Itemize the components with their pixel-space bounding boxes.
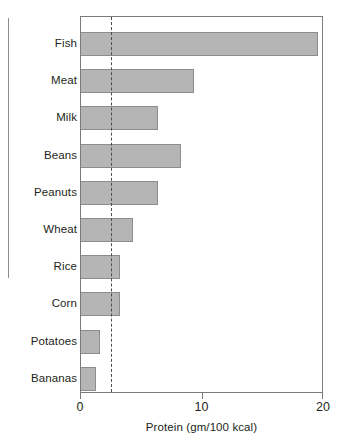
protein-bar-chart: FishMeatMilkBeansPeanutsWheatRiceCornPot… xyxy=(0,0,347,445)
category-label-rice: Rice xyxy=(0,260,77,272)
x-axis-title: Protein (gm/100 kcal) xyxy=(80,420,323,434)
plot-area xyxy=(80,16,323,393)
x-tick-10 xyxy=(202,393,203,399)
category-label-fish: Fish xyxy=(0,37,77,49)
bar-peanuts xyxy=(81,181,158,205)
category-label-wheat: Wheat xyxy=(0,223,77,235)
bar-meat xyxy=(81,69,194,93)
x-tick-0 xyxy=(80,393,81,399)
category-label-peanuts: Peanuts xyxy=(0,186,77,198)
category-label-potatoes: Potatoes xyxy=(0,335,77,347)
category-label-beans: Beans xyxy=(0,149,77,161)
bar-bananas xyxy=(81,367,96,391)
x-tick-label-10: 10 xyxy=(182,400,222,414)
category-axis-labels: FishMeatMilkBeansPeanutsWheatRiceCornPot… xyxy=(0,16,77,393)
bar-milk xyxy=(81,106,158,130)
reference-line xyxy=(111,17,112,392)
category-label-milk: Milk xyxy=(0,111,77,123)
bar-beans xyxy=(81,144,181,168)
bar-rice xyxy=(81,255,120,279)
x-tick-20 xyxy=(322,393,323,399)
bar-fish xyxy=(81,32,318,56)
plot-inner xyxy=(81,17,322,392)
x-tick-label-20: 20 xyxy=(303,400,343,414)
bar-potatoes xyxy=(81,330,100,354)
bar-corn xyxy=(81,292,120,316)
category-label-meat: Meat xyxy=(0,74,77,86)
x-tick-label-0: 0 xyxy=(60,400,100,414)
category-label-corn: Corn xyxy=(0,297,77,309)
category-label-bananas: Bananas xyxy=(0,372,77,384)
bar-wheat xyxy=(81,218,133,242)
